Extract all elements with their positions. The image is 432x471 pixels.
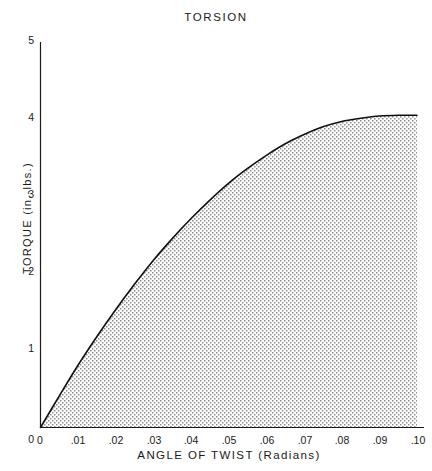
curve-fill-area (41, 115, 418, 427)
torsion-chart-figure: TORSION TORQUE (in.-lbs.) ANGLE OF TWIST… (0, 0, 432, 471)
plot-area (0, 0, 432, 471)
